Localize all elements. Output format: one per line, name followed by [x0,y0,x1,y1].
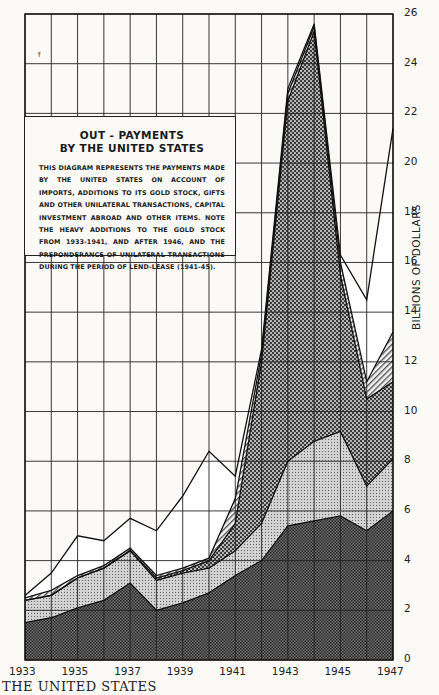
y-tick-label: 0 [404,652,411,664]
y-tick-label: 6 [404,503,411,515]
x-tick-label: 1939 [167,665,194,677]
stacked-area-chart [0,0,439,695]
y-tick-label: 26 [404,6,417,18]
y-axis-label: BILLIONS OF DOLLARS [410,204,422,330]
y-tick-label: 24 [404,56,417,68]
x-tick-label: 1933 [9,665,36,677]
x-tick-label: 1945 [324,665,351,677]
y-tick-label: 2 [404,602,411,614]
x-tick-label: 1941 [219,665,246,677]
y-tick-label: 8 [404,453,411,465]
legend-title-line2: BY THE UNITED STATES [39,142,225,155]
stray-mark: f [38,51,40,59]
y-tick-label: 22 [404,105,417,117]
x-tick-label: 1947 [377,665,404,677]
x-tick-label: 1935 [62,665,89,677]
legend-title-line1: OUT - PAYMENTS [39,129,225,142]
legend-text-box: OUT - PAYMENTS BY THE UNITED STATES THIS… [24,116,236,256]
legend-description: THIS DIAGRAM REPRESENTS THE PAYMENTS MAD… [39,162,225,274]
y-tick-label: 4 [404,553,411,565]
y-tick-label: 12 [404,354,417,366]
x-tick-label: 1943 [272,665,299,677]
y-tick-label: 20 [404,155,417,167]
y-tick-label: 10 [404,404,417,416]
x-tick-label: 1937 [114,665,141,677]
running-head: THE UNITED STATES [2,679,157,694]
